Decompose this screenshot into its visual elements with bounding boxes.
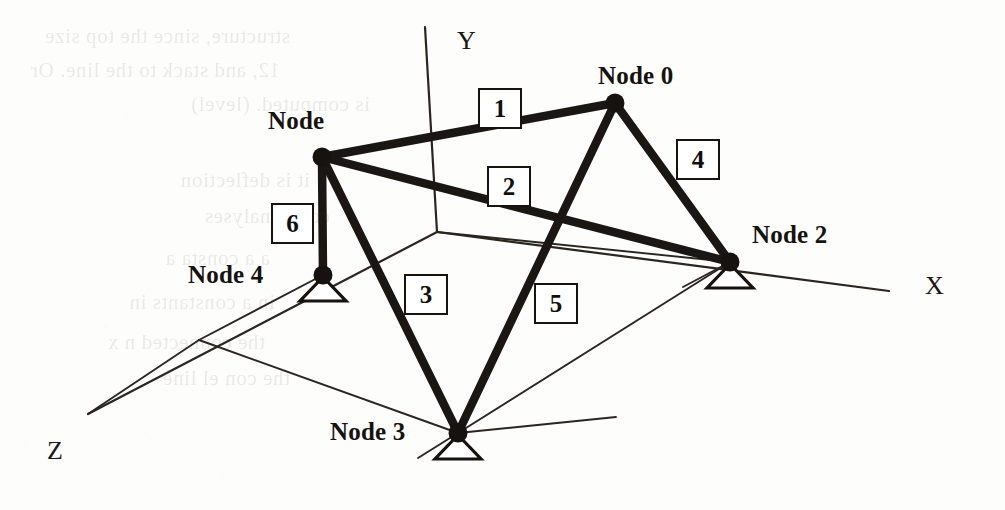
node-0-dot <box>606 94 625 113</box>
element-3-number-box: 3 <box>404 274 448 315</box>
element-5-number-box: 5 <box>534 283 578 324</box>
figure-page: structure, since the top size12, and sta… <box>0 0 1005 510</box>
node-0-label: Node 0 <box>598 63 674 88</box>
node-3-label: Node 3 <box>330 419 406 444</box>
element-2-number-box: 2 <box>487 166 531 207</box>
y-axis-line <box>425 27 437 232</box>
element-6-number-box: 6 <box>271 203 314 244</box>
proj-n3-to-right <box>458 417 616 433</box>
z-axis-label: Z <box>47 438 63 464</box>
truss-members <box>322 103 730 433</box>
node-1-label: Node <box>268 108 324 133</box>
node-4-label: Node 4 <box>188 262 264 287</box>
node-2-label: Node 2 <box>752 222 828 247</box>
node-2-dot <box>721 253 740 272</box>
node-3-dot <box>449 424 468 443</box>
x-axis-label: X <box>925 273 944 299</box>
y-axis-label: Y <box>457 28 476 54</box>
element-4-number-box: 4 <box>676 139 720 180</box>
truss-diagram <box>0 0 1005 510</box>
element-6-member <box>322 157 323 275</box>
element-1-number-box: 1 <box>478 88 522 129</box>
node-4-dot <box>314 266 333 285</box>
node-1-dot <box>313 148 332 167</box>
proj-ground-to-z <box>88 340 199 414</box>
element-1-member <box>322 103 615 157</box>
z-axis-line <box>88 232 437 414</box>
